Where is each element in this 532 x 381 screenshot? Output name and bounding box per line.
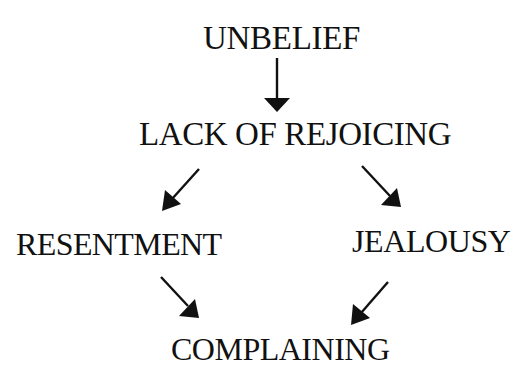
arrow-down-left-icon	[351, 282, 388, 325]
arrow-down-icon	[264, 58, 290, 112]
arrow-down-left-icon	[162, 169, 199, 211]
arrows-layer	[0, 0, 532, 381]
arrow-down-right-icon	[362, 166, 401, 207]
arrow-down-right-icon	[161, 277, 199, 318]
